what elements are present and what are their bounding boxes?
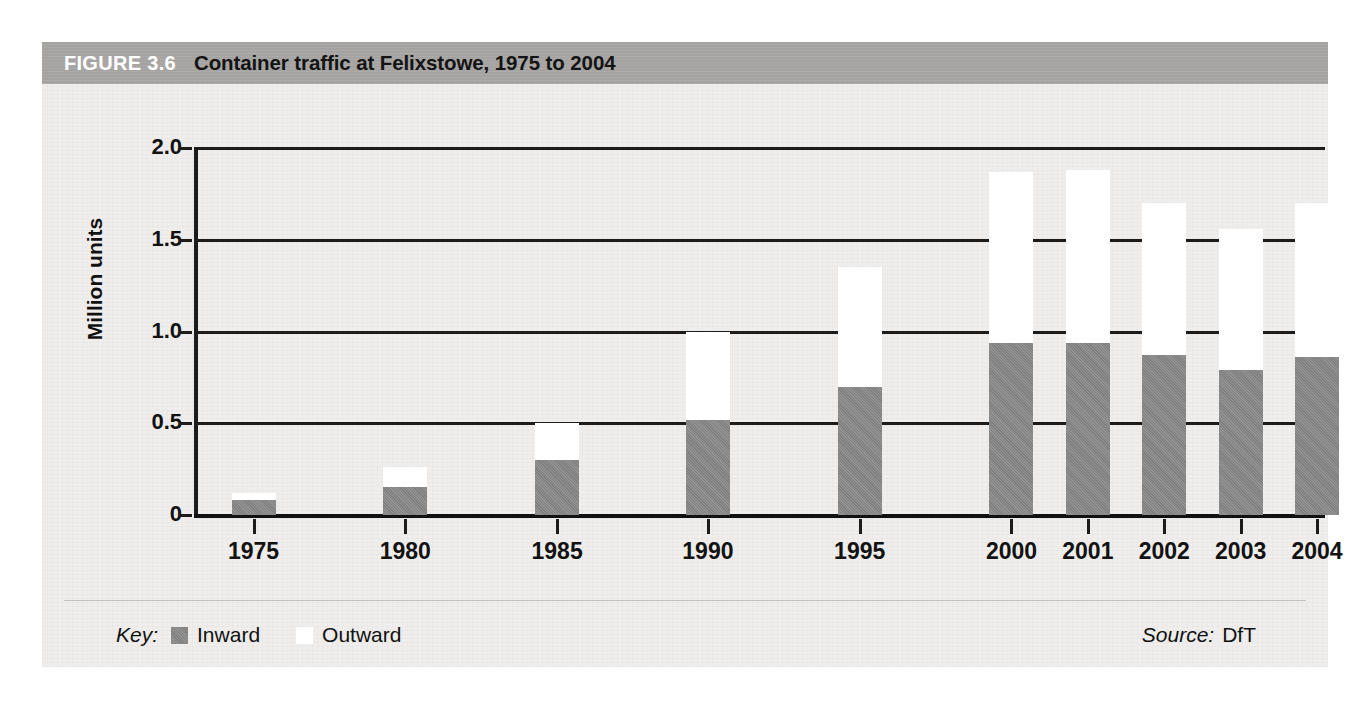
bar-segment-inward-1990 (686, 420, 730, 515)
bar-segment-outward-1995 (838, 267, 882, 386)
bar-segment-inward-1995 (838, 387, 882, 515)
bar-segment-inward-1980 (383, 487, 427, 515)
bar-1975 (232, 493, 276, 515)
x-tick-mark-1990 (707, 519, 710, 534)
legend-swatch-inward-icon (171, 627, 188, 644)
x-tick-mark-2003 (1240, 519, 1243, 534)
x-tick-label-1985: 1985 (532, 538, 583, 565)
x-tick-label-1980: 1980 (380, 538, 431, 565)
bar-segment-outward-2000 (989, 172, 1033, 343)
plot-area (194, 148, 1325, 515)
x-axis-tick-labels: 1975198019851990199520002001200220032004 (194, 538, 1325, 572)
bar-segment-outward-2004 (1295, 203, 1339, 357)
legend-title: Key: (116, 623, 158, 647)
x-tick-label-1990: 1990 (682, 538, 733, 565)
x-tick-label-2001: 2001 (1062, 538, 1113, 565)
x-tick-mark-1980 (404, 519, 407, 534)
y-tick-mark-1.5 (179, 239, 192, 242)
x-tick-label-2004: 2004 (1291, 538, 1342, 565)
bar-segment-outward-1985 (535, 423, 579, 460)
y-tick-mark-1.0 (179, 331, 192, 334)
bar-segment-inward-2003 (1219, 370, 1263, 515)
bar-segment-outward-1990 (686, 332, 730, 420)
figure-title: Container traffic at Felixstowe, 1975 to… (194, 51, 616, 75)
figure-panel: FIGURE 3.6 Container traffic at Felixsto… (42, 42, 1328, 667)
bar-segment-outward-2002 (1142, 203, 1186, 355)
chart-legend: Key: Inward Outward (116, 620, 437, 650)
x-tick-label-1995: 1995 (834, 538, 885, 565)
y-axis-title: Million units (83, 218, 107, 340)
bar-1990 (686, 332, 730, 515)
bar-2004 (1295, 203, 1339, 515)
bar-2002 (1142, 203, 1186, 515)
bar-segment-inward-2000 (989, 343, 1033, 515)
y-tick-label-2.0: 2.0 (151, 136, 182, 158)
x-tick-label-2003: 2003 (1215, 538, 1266, 565)
y-tick-label-1.5: 1.5 (151, 228, 182, 250)
legend-swatch-outward-icon (296, 627, 313, 644)
x-tick-mark-2002 (1163, 519, 1166, 534)
y-axis-tick-labels: 00.51.01.52.0 (122, 148, 182, 515)
legend-label-inward: Inward (197, 623, 260, 647)
x-axis-ticks (194, 519, 1325, 535)
gridline-2.0 (194, 147, 1325, 150)
bar-1995 (838, 267, 882, 515)
x-tick-mark-2004 (1316, 519, 1319, 534)
bar-1980 (383, 467, 427, 515)
figure-number-label: FIGURE 3.6 (64, 52, 176, 75)
y-tick-mark-0 (179, 514, 192, 517)
bar-segment-outward-2003 (1219, 229, 1263, 370)
source-label: Source: (1142, 623, 1214, 647)
x-tick-label-2000: 2000 (986, 538, 1037, 565)
bar-segment-outward-1980 (383, 467, 427, 487)
source-value: DfT (1222, 623, 1256, 647)
x-tick-mark-2001 (1087, 519, 1090, 534)
x-tick-label-1975: 1975 (228, 538, 279, 565)
bar-segment-outward-2001 (1066, 170, 1110, 342)
x-tick-mark-1985 (556, 519, 559, 534)
bar-2003 (1219, 229, 1263, 515)
bar-1985 (535, 423, 579, 515)
figure-header-bar: FIGURE 3.6 Container traffic at Felixsto… (42, 42, 1328, 84)
footer-divider (64, 600, 1306, 601)
bar-segment-outward-1975 (232, 493, 276, 500)
bar-segment-inward-2002 (1142, 355, 1186, 515)
bar-2000 (989, 172, 1033, 515)
bar-segment-inward-2001 (1066, 343, 1110, 515)
x-tick-mark-1995 (859, 519, 862, 534)
legend-label-outward: Outward (322, 623, 401, 647)
y-tick-label-0.5: 0.5 (151, 411, 182, 433)
source-note: Source: DfT (1142, 620, 1256, 650)
y-tick-label-1.0: 1.0 (151, 320, 182, 342)
y-tick-mark-2.0 (179, 147, 192, 150)
x-tick-label-2002: 2002 (1139, 538, 1190, 565)
bar-2001 (1066, 170, 1110, 515)
x-tick-mark-2000 (1010, 519, 1013, 534)
bar-segment-inward-1975 (232, 500, 276, 515)
bar-segment-inward-2004 (1295, 357, 1339, 515)
bar-segment-inward-1985 (535, 460, 579, 515)
y-tick-mark-0.5 (179, 422, 192, 425)
x-tick-mark-1975 (253, 519, 256, 534)
